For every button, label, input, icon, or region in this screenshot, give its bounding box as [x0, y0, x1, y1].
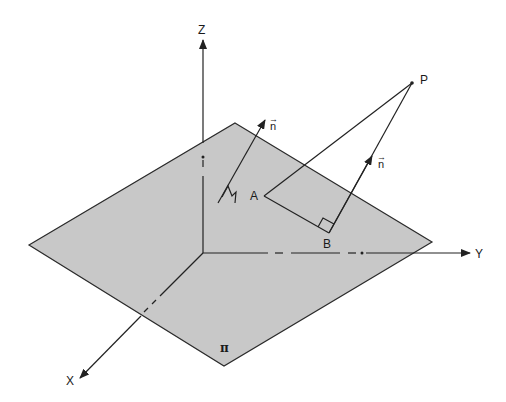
z-axis-label: Z	[198, 23, 205, 37]
point-b-label: B	[323, 237, 331, 251]
normal-vector-plane-arrow: →	[269, 114, 278, 124]
y-axis-label: Y	[475, 247, 483, 261]
plane-pi	[29, 123, 432, 366]
point-p-label: P	[420, 73, 428, 87]
normal-vector-b-arrow: →	[377, 152, 386, 162]
point-a-label: A	[250, 189, 258, 203]
x-axis-label: X	[66, 374, 74, 388]
point-p-dot	[410, 81, 414, 85]
diagram-canvas: Z Y X P A B π n → n →	[0, 0, 506, 402]
plane-label: π	[220, 341, 229, 355]
